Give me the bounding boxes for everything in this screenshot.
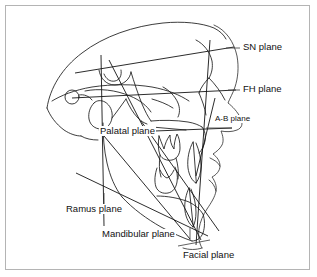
reference-planes-group	[72, 40, 240, 246]
upper-incisor-edge	[188, 142, 196, 183]
label-sn-plane: SN plane	[243, 42, 282, 52]
fh-plane-line	[72, 90, 236, 98]
nasal-bone	[209, 78, 225, 100]
label-mandibular-plane: Mandibular plane	[101, 229, 176, 239]
upper-lip-crease	[210, 158, 220, 166]
cephalometric-figure: SN plane FH plane A-B plane Palatal plan…	[0, 0, 317, 277]
label-fh-plane: FH plane	[243, 84, 282, 94]
maxilla-outline	[151, 120, 202, 127]
sigmoid-notch	[112, 99, 126, 118]
occlusal-construction-line	[141, 121, 219, 231]
clivus-outline	[47, 108, 81, 136]
occipital-outline	[81, 136, 98, 140]
label-palatal-plane: Palatal plane	[99, 126, 156, 136]
orbital-floor	[152, 99, 173, 108]
label-ramus-plane: Ramus plane	[65, 204, 123, 214]
sn-plane-line	[75, 47, 234, 73]
label-facial-plane: Facial plane	[182, 250, 235, 260]
coronoid-process	[126, 99, 147, 124]
orbital-rim	[163, 87, 180, 117]
maxillary-molar	[158, 134, 180, 160]
label-ab-plane: A-B plane	[214, 115, 251, 123]
